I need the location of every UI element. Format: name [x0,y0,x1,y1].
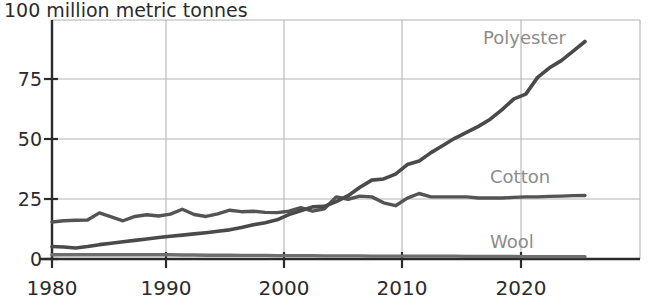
series-label-polyester: Polyester [483,27,566,48]
x-tick-label-2000: 2000 [259,276,310,300]
y-axis-unit-label: 100 million metric tonnes [4,0,248,21]
line-chart: 100 million metric tonnes 75 50 25 0 198… [0,0,650,303]
y-tick-label-0: 0 [30,248,42,270]
x-tick-label-1980: 1980 [27,276,78,300]
series-label-wool: Wool [490,231,534,252]
series-label-cotton: Cotton [490,166,550,187]
x-tick-label-2010: 2010 [377,276,428,300]
x-tick-label-2020: 2020 [496,276,547,300]
y-tick-label-25: 25 [18,188,42,210]
y-tick-label-75: 75 [18,68,42,90]
y-tick-label-50: 50 [18,128,42,150]
x-tick-label-1990: 1990 [141,276,192,300]
series-line-wool [52,255,585,257]
chart-svg: 100 million metric tonnes 75 50 25 0 198… [0,0,650,303]
